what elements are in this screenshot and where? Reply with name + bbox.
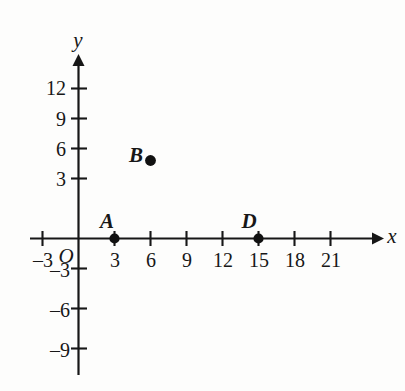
y-tick-label--6: –6 xyxy=(50,300,70,320)
y-tick-label--9: –9 xyxy=(50,340,70,360)
point-label-D: D xyxy=(241,211,256,232)
data-point-A xyxy=(109,233,119,243)
origin-label: O xyxy=(58,246,73,267)
x-axis-label: x xyxy=(387,226,396,247)
y-tick-label-9: 9 xyxy=(56,109,66,129)
x-tick-label-12: 12 xyxy=(213,250,233,270)
y-tick-label-3: 3 xyxy=(56,169,66,189)
x-tick-label--3: –3 xyxy=(33,250,53,270)
point-label-A: A xyxy=(100,211,114,232)
y-axis-label: y xyxy=(73,30,82,51)
x-tick-label-9: 9 xyxy=(182,250,192,270)
x-axis-arrowhead xyxy=(372,233,384,245)
x-tick-label-15: 15 xyxy=(249,250,269,270)
point-label-B: B xyxy=(129,145,143,166)
axes-and-points-svg xyxy=(0,0,405,391)
data-point-B xyxy=(145,155,156,166)
y-axis xyxy=(73,54,85,375)
x-tick-label-3: 3 xyxy=(110,250,120,270)
data-point-D xyxy=(253,233,263,243)
coordinate-plane-figure: 12 9 6 3 –3 –6 –9 –3 3 6 9 12 15 18 21 O… xyxy=(0,0,405,391)
y-axis-arrowhead xyxy=(73,54,85,66)
y-tick-label-12: 12 xyxy=(46,78,66,98)
x-tick-label-6: 6 xyxy=(146,250,156,270)
x-tick-label-18: 18 xyxy=(285,250,305,270)
y-tick-label-6: 6 xyxy=(56,139,66,159)
x-tick-label-21: 21 xyxy=(321,250,341,270)
